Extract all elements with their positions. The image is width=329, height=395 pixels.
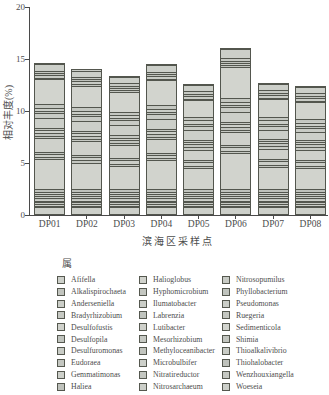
bar-segment-Thioalkalivibrio: [147, 76, 176, 79]
bar-segment-Nitrosarchaeum: [35, 118, 64, 128]
bar-segment-Haliea: [296, 189, 325, 192]
bar-segment-Halioglobus: [110, 166, 139, 189]
legend-label: Wenzhouxiangella: [236, 370, 294, 379]
legend-swatch-icon: [222, 383, 230, 391]
bar-segment-Bradyrhizobium: [147, 202, 176, 204]
legend-item-Sedimenticola: Sedimenticola: [222, 321, 304, 333]
legend-label: Microbulbifer: [153, 358, 197, 367]
legend-item-Haliea: Haliea: [57, 381, 139, 393]
bar-segment-Halioglobus: [147, 160, 176, 188]
stacked-bar-DP04: [146, 64, 177, 215]
legend-label: Sedimenticola: [236, 323, 281, 332]
bar-segment-Gemmatimonas: [259, 192, 288, 195]
bar-segment-Halioglobus: [259, 167, 288, 189]
bar-segment-Methyloceanibacter: [35, 133, 64, 136]
legend-label: Halioglobus: [153, 275, 191, 284]
legend-swatch-icon: [222, 276, 230, 284]
bar-segment-Gemmatimonas: [184, 192, 213, 195]
bar-segment-Methyloceanibacter: [147, 134, 176, 137]
legend-title: 属: [62, 255, 72, 270]
legend-item-Halioglobus: Halioglobus: [139, 274, 221, 286]
bar-segment-Mesorhizobium: [110, 143, 139, 145]
bar-segment-Shimia: [110, 90, 139, 92]
legend-swatch-icon: [139, 300, 147, 308]
bar-segment-Eudoraea: [72, 194, 101, 196]
bar-segment-Haliea: [221, 189, 250, 192]
legend-item-Microbulbifer: Microbulbifer: [139, 357, 221, 369]
bar-segment-Mesorhizobium: [296, 147, 325, 149]
legend-swatch-icon: [139, 288, 147, 296]
bar-segment-Lutibacter: [35, 138, 64, 152]
bar-segment-Desulfopila: [184, 198, 213, 201]
bar-segment-Wenzhouxiangella: [147, 72, 176, 75]
bar-segment-Methyloceanibacter: [184, 144, 213, 147]
stacked-bar-DP05: [183, 84, 214, 215]
bar-segment-Methyloceanibacter: [221, 127, 250, 130]
bar-segment-Desulfuromonas: [110, 196, 139, 198]
bar-segment-Ilumatobacter: [259, 161, 288, 165]
bar-segment-Thioalkalivibrio: [72, 81, 101, 84]
bar-segment-Pseudomonas: [296, 123, 325, 126]
bar-segment-Labrenzia: [296, 160, 325, 162]
bar-segment-Anderseniella: [147, 204, 176, 206]
legend-item-Mesorhizobium: Mesorhizobium: [139, 333, 221, 345]
bar-segment-Desulfopila: [221, 198, 250, 201]
bar-segment-Thioalkalivibrio: [184, 96, 213, 99]
legend-item-Desulfopila: Desulfopila: [57, 333, 139, 345]
legend-swatch-icon: [222, 371, 230, 379]
bar-slot-DP05: DP05: [180, 7, 217, 215]
bar-segment-Microbulbifer: [72, 133, 101, 136]
legend-item-Methyloceanibacter: Methyloceanibacter: [139, 345, 221, 357]
bar-segment-Hyphomicrobium: [259, 165, 288, 167]
bar-segment-Thioalkalivibrio: [110, 88, 139, 91]
bar-segment-Ilumatobacter: [35, 154, 64, 158]
bar-segment-Ilumatobacter: [184, 162, 213, 166]
bar-segment-Eudoraea: [147, 194, 176, 196]
bar-segment-Alkalispirochaeta: [221, 206, 250, 207]
bar-segment-Sedimenticola: [35, 79, 64, 104]
bar-segment-Desulfofustis: [147, 201, 176, 203]
bar-segment-Labrenzia: [221, 145, 250, 147]
legend-label: Methyloceanibacter: [153, 346, 215, 355]
bar-segment-Mesorhizobium: [221, 130, 250, 132]
legend-item-Nitratireductor: Nitratireductor: [139, 369, 221, 381]
bar-segment-Lutibacter: [72, 141, 101, 155]
bar-segment-Nitratireductor: [184, 140, 213, 142]
legend-item-Alkalispirochaeta: Alkalispirochaeta: [57, 286, 139, 298]
bar-segment-Afifella: [147, 207, 176, 214]
legend-item-Shimia: Shimia: [222, 333, 304, 345]
bar-segment-Nitratireductor: [296, 140, 325, 142]
bar-segment-Desulfofustis: [259, 201, 288, 203]
bar-segment-Desulfuromonas: [72, 196, 101, 198]
legend-label: Desulfopila: [71, 335, 107, 344]
bar-segment-Woeseia: [35, 64, 64, 70]
bar-segment-Sedimenticola: [296, 102, 325, 119]
bar-slot-DP04: DP04: [143, 7, 180, 215]
legend-item-Desulfuromonas: Desulfuromonas: [57, 345, 139, 357]
legend-swatch-icon: [139, 359, 147, 367]
bar-segment-Gemmatimonas: [221, 192, 250, 195]
bar-segment-Haliea: [72, 189, 101, 192]
bar-slot-DP06: DP06: [217, 7, 254, 215]
bar-segment-Desulfopila: [296, 198, 325, 201]
bar-segment-Labrenzia: [35, 152, 64, 154]
bar-segment-Microbulbifer: [184, 142, 213, 145]
legend-swatch-icon: [222, 359, 230, 367]
bar-segment-Thiohalobacter: [72, 79, 101, 81]
bar-segment-Desulfofustis: [72, 201, 101, 203]
bar-segment-Haliea: [184, 189, 213, 192]
legend-swatch-icon: [57, 383, 65, 391]
legend-label: Thioalkalivibrio: [236, 346, 287, 355]
legend-swatch-icon: [222, 335, 230, 343]
legend-swatch-icon: [57, 288, 65, 296]
bar-segment-Haliea: [147, 189, 176, 192]
y-tick-label: 20: [16, 2, 25, 12]
legend-column-1: AfifellaAlkalispirochaetaAnderseniellaBr…: [57, 274, 139, 392]
bar-segment-Thiohalobacter: [35, 73, 64, 75]
legend-label: Mesorhizobium: [153, 335, 202, 344]
bar-segment-Eudoraea: [35, 194, 64, 196]
bar-segment-Ruegeria: [259, 117, 288, 121]
bar-segment-Nitratireductor: [259, 139, 288, 141]
bar-segment-Shimia: [259, 98, 288, 100]
bar-segment-Ilumatobacter: [110, 160, 139, 164]
